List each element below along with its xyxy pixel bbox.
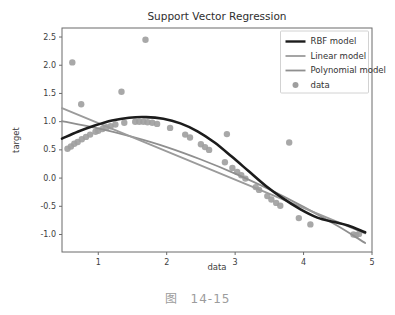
y-tick-label: 0.5 — [43, 145, 56, 154]
y-axis: 2.52.01.51.00.50.0-0.5-1.0 — [40, 33, 62, 239]
figure: 2.52.01.51.00.50.0-0.5-1.012345RBF model… — [0, 0, 395, 315]
y-tick-label: 1.0 — [43, 117, 56, 126]
caption-prefix: 图 — [165, 292, 177, 306]
caption-number: 14-15 — [191, 292, 231, 306]
legend: RBF modelLinear modelPolynomial modeldat… — [281, 31, 386, 93]
legend-label: RBF model — [311, 36, 357, 46]
y-tick-label: 2.5 — [43, 33, 56, 42]
y-tick-label: -0.5 — [40, 202, 56, 211]
y-axis-label: target — [11, 127, 21, 153]
legend-label: data — [311, 80, 330, 90]
svg-chart: 2.52.01.51.00.50.0-0.5-1.012345RBF model… — [0, 0, 395, 275]
x-axis-label: data — [62, 262, 372, 272]
figure-caption: 图14-15 — [0, 289, 395, 306]
y-tick-label: 1.5 — [43, 89, 56, 98]
legend-marker-data — [293, 82, 299, 88]
series-polynomial-model — [62, 121, 365, 243]
legend-label: Linear model — [311, 51, 367, 61]
y-tick-label: 0.0 — [43, 174, 56, 183]
y-tick-label: 2.0 — [43, 61, 56, 70]
legend-label: Polynomial model — [311, 65, 386, 75]
series-linear-model — [62, 108, 365, 233]
y-tick-label: -1.0 — [40, 230, 56, 239]
chart-title: Support Vector Regression — [62, 10, 372, 22]
